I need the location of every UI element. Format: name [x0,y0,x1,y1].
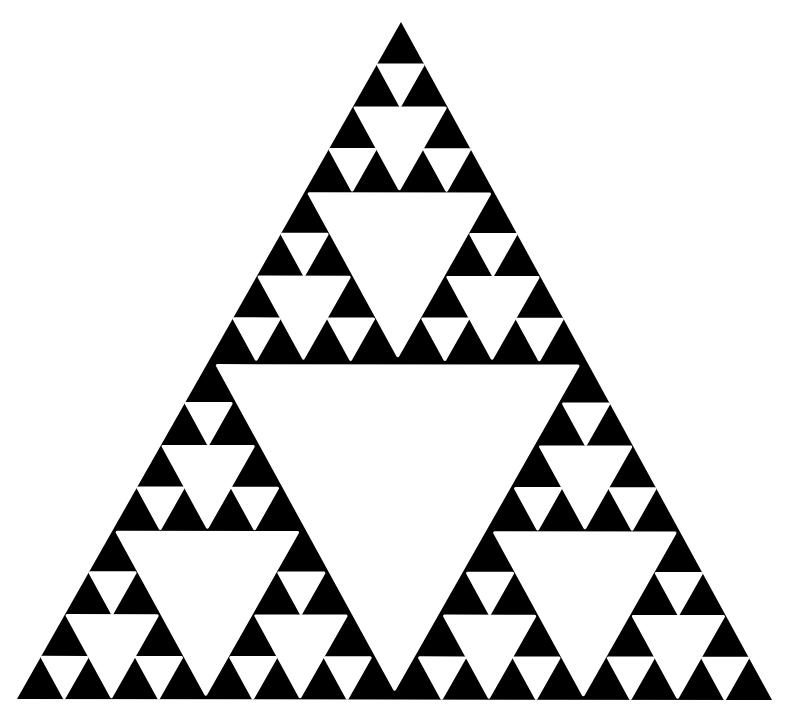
sierpinski-figure: Sierpinski triangle [0,0,786,711]
sierpinski-triangle-graphic [0,0,786,711]
